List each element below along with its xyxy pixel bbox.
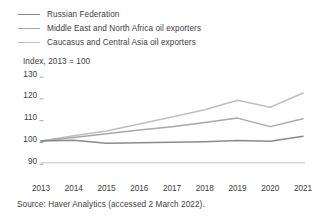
chart-line-series xyxy=(41,93,303,141)
source-note: Source: Haver Analytics (accessed 2 Marc… xyxy=(17,200,205,209)
x-axis-tick-label: 2015 xyxy=(92,184,122,193)
x-axis-tick-label: 2016 xyxy=(124,184,154,193)
x-axis-tick-label: 2013 xyxy=(26,184,56,193)
x-axis-tick-label: 2014 xyxy=(59,184,89,193)
x-axis-tick-label: 2019 xyxy=(223,184,253,193)
y-axis-tick-label: 110 xyxy=(13,113,37,122)
x-axis-tick-label: 2017 xyxy=(157,184,187,193)
y-axis-tick-label: 130 xyxy=(13,70,37,79)
chart-plot-area: 9010011012013020132014201520162017201820… xyxy=(0,0,315,221)
chart-line-series xyxy=(41,118,303,141)
y-axis-tick-label: 90 xyxy=(13,157,37,166)
x-axis-tick-label: 2018 xyxy=(190,184,220,193)
x-axis-tick-label: 2021 xyxy=(288,184,315,193)
y-axis-tick-label: 100 xyxy=(13,135,37,144)
x-axis-tick-label: 2020 xyxy=(255,184,285,193)
y-axis-tick-label: 120 xyxy=(13,91,37,100)
